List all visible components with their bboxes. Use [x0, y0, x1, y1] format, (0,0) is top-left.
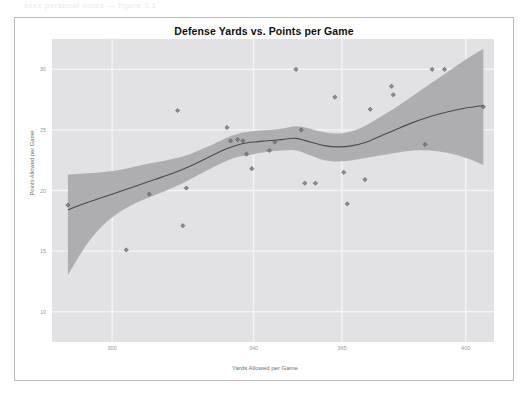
- data-point: [363, 177, 367, 181]
- data-point: [368, 107, 372, 111]
- data-point: [175, 108, 179, 112]
- y-tick-label: 25: [24, 127, 46, 133]
- data-point: [333, 95, 337, 99]
- x-axis-title: Yards Allowed per Game: [15, 365, 515, 371]
- data-point: [313, 181, 317, 185]
- chart-title: Defense Yards vs. Points per Game: [15, 25, 513, 37]
- plot-panel: [52, 39, 494, 342]
- figure-card: Defense Yards vs. Points per Game 101520…: [14, 17, 514, 381]
- y-tick-label: 10: [24, 309, 46, 315]
- y-axis-title: Points Allowed per Game: [29, 120, 35, 206]
- x-tick-label: 400: [451, 345, 481, 351]
- data-point: [430, 67, 434, 71]
- confidence-band: [68, 49, 483, 276]
- data-point: [181, 224, 185, 228]
- data-point: [389, 84, 393, 88]
- data-point: [442, 67, 446, 71]
- data-point: [345, 202, 349, 206]
- y-tick-label: 30: [24, 66, 46, 72]
- y-tick-label: 20: [24, 188, 46, 194]
- data-point: [303, 181, 307, 185]
- x-tick-label: 365: [327, 345, 357, 351]
- data-point: [294, 67, 298, 71]
- data-point: [225, 125, 229, 129]
- plot-svg: [52, 39, 494, 342]
- x-tick-label: 300: [97, 345, 127, 351]
- data-point: [391, 93, 395, 97]
- x-tick-label: 340: [239, 345, 269, 351]
- top-text-fragment: xxxx personal notes — figure 3.1: [24, 1, 157, 10]
- data-point: [184, 186, 188, 190]
- y-tick-label: 15: [24, 248, 46, 254]
